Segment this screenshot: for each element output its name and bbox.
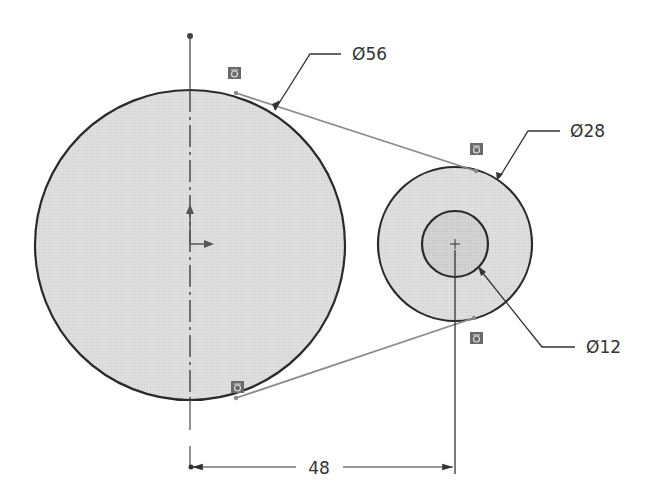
small-diameter-dimension[interactable]: Ø28 [496, 121, 605, 180]
tangent-point [472, 316, 476, 320]
tangent-relation-icon[interactable] [228, 67, 241, 79]
large-diameter-value[interactable]: Ø56 [352, 44, 387, 64]
center-distance-value[interactable]: 48 [308, 458, 330, 478]
hole-diameter-value[interactable]: Ø12 [586, 337, 621, 357]
tangent-point [234, 396, 238, 400]
tangent-point [234, 91, 238, 95]
tangent-relation-icon[interactable] [231, 381, 244, 393]
large-diameter-dimension[interactable]: Ø56 [272, 44, 387, 110]
tangent-relation-icon[interactable] [470, 143, 483, 155]
center-distance-dimension[interactable]: 48 [189, 458, 454, 478]
sketch-canvas[interactable]: 48 Ø56 Ø28 Ø12 [0, 0, 646, 504]
small-diameter-value[interactable]: Ø28 [570, 121, 605, 141]
tangent-relation-icon[interactable] [470, 332, 483, 344]
tangent-point [474, 169, 478, 173]
